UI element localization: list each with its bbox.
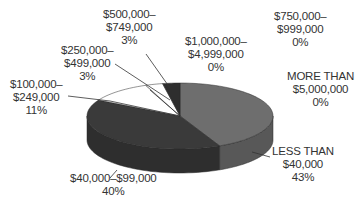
label-line: LESS THAN [272, 145, 334, 158]
label-line: $999,000 [274, 23, 327, 36]
label-more-than-5m: MORE THAN $5,000,000 0% [287, 70, 354, 109]
label-less-than-40k: LESS THAN $40,000 43% [272, 145, 334, 184]
label-1m-4999k: $1,000,000– $4,999,000 0% [185, 35, 247, 74]
label-line: 11% [10, 104, 63, 117]
label-line: 40% [70, 185, 157, 198]
label-line: 3% [61, 70, 114, 83]
label-line: $40,000 [272, 158, 334, 171]
label-line: $4,999,000 [185, 48, 247, 61]
label-line: $1,000,000– [185, 35, 247, 48]
label-40k-99k: $40,000–$99,000 40% [70, 172, 157, 198]
label-250k-499k: $250,000– $499,000 3% [61, 44, 114, 83]
label-line: 3% [103, 34, 156, 47]
label-line: $749,000 [103, 21, 156, 34]
label-500k-749k: $500,000– $749,000 3% [103, 8, 156, 47]
label-line: $249,000 [10, 91, 63, 104]
label-line: $500,000– [103, 8, 156, 21]
leader-500to749k [146, 54, 170, 88]
label-100k-249k: $100,000– $249,000 11% [10, 78, 63, 117]
label-line: MORE THAN [287, 70, 354, 83]
label-line: $750,000– [274, 10, 327, 23]
label-750k-999k: $750,000– $999,000 0% [274, 10, 327, 49]
label-line: 0% [274, 36, 327, 49]
label-line: $5,000,000 [287, 83, 354, 96]
label-line: $40,000–$99,000 [70, 172, 157, 185]
label-line: 0% [185, 61, 247, 74]
label-line: 43% [272, 171, 334, 184]
label-line: $499,000 [61, 57, 114, 70]
label-line: 0% [287, 96, 354, 109]
label-line: $100,000– [10, 78, 63, 91]
